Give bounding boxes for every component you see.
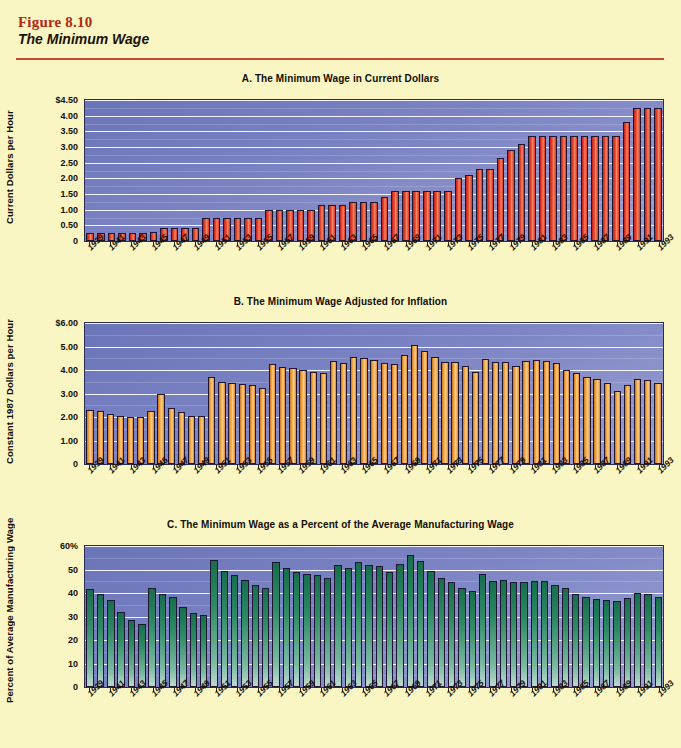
bar	[486, 169, 494, 241]
bar	[218, 382, 225, 464]
bar	[573, 373, 580, 464]
bar	[350, 357, 357, 464]
bar	[572, 594, 579, 687]
bar	[239, 384, 246, 464]
bar	[283, 568, 290, 687]
bar-cell	[491, 323, 501, 464]
panel-a-plot-area: Current Dollars per Hour $4.504.003.503.…	[0, 85, 681, 270]
bar-cell	[572, 323, 582, 464]
bar	[168, 408, 175, 464]
panel-b-xlabels: 1939194119431945194719491951195319551957…	[84, 469, 664, 511]
bar-cell	[136, 323, 146, 464]
bar	[644, 380, 651, 464]
bar-cell	[430, 323, 440, 464]
bar-cell	[470, 323, 480, 464]
bar	[147, 411, 154, 464]
bar	[553, 363, 560, 464]
bar-cell	[219, 546, 229, 687]
bar	[518, 144, 526, 241]
bar	[208, 377, 215, 464]
bar	[583, 377, 590, 464]
bar	[365, 565, 372, 687]
bar-cell	[95, 546, 105, 687]
bar-cell	[516, 100, 527, 241]
bar-cell	[348, 100, 359, 241]
panel-c-ylabel: Percent of Average Manufacturing Wage	[4, 531, 16, 703]
bar-cell	[298, 323, 308, 464]
ytick-label: 5.00	[60, 342, 78, 351]
bar	[339, 205, 347, 241]
bar-cell	[541, 323, 551, 464]
bar-cell	[217, 323, 227, 464]
bar	[528, 136, 536, 241]
bar-cell	[257, 323, 267, 464]
bar-cell	[292, 546, 302, 687]
bar-cell	[389, 323, 399, 464]
panel-c-xlabels: 1939194119431945194719491951195319551957…	[84, 692, 664, 734]
bar-cell	[521, 323, 531, 464]
bar	[269, 364, 276, 464]
bar-cell	[169, 100, 180, 241]
bar-cell	[349, 323, 359, 464]
bar-cell	[333, 546, 343, 687]
bar-cell	[600, 100, 611, 241]
ytick-label: 0	[73, 460, 78, 469]
bar	[492, 362, 499, 464]
ytick-label: 4.00	[60, 111, 78, 120]
bar	[431, 357, 438, 464]
panel-b-plot-area: Constant 1987 Dollars per Hour $6.005.00…	[0, 308, 681, 493]
bar	[401, 355, 408, 464]
bar	[602, 136, 610, 241]
bar-cell	[453, 100, 464, 241]
bar	[444, 191, 452, 241]
bar	[128, 620, 135, 687]
ytick-label: 4.00	[60, 366, 78, 375]
bar-cell	[230, 546, 240, 687]
bar	[179, 607, 186, 687]
bar-cell	[369, 100, 380, 241]
bar-cell	[410, 323, 420, 464]
bar-cell	[288, 323, 298, 464]
bar-cell	[385, 546, 395, 687]
bar-cell	[343, 546, 353, 687]
bar	[330, 361, 337, 464]
ytick-label: 30	[68, 612, 78, 621]
bar	[252, 585, 259, 687]
bar-cell	[166, 323, 176, 464]
ytick-label: 2.00	[60, 174, 78, 183]
bar-cell	[211, 100, 222, 241]
bar-cell	[271, 546, 281, 687]
bar-cell	[579, 100, 590, 241]
bar	[169, 597, 176, 687]
bar	[593, 379, 600, 464]
bar-cell	[137, 546, 147, 687]
bar-cell	[569, 100, 580, 241]
ytick-label: 3.50	[60, 127, 78, 136]
bar-cell	[369, 323, 379, 464]
bar	[360, 202, 368, 241]
bar-cell	[207, 323, 217, 464]
bar-cell	[440, 323, 450, 464]
bar	[190, 613, 197, 687]
bar	[563, 370, 570, 464]
bar-cell	[529, 546, 539, 687]
bar	[272, 562, 279, 687]
bar	[644, 594, 651, 687]
bar	[604, 383, 611, 464]
bar	[97, 594, 104, 687]
bar	[402, 191, 410, 241]
panel-a: A. The Minimum Wage in Current Dollars C…	[0, 72, 681, 270]
bar-cell	[138, 100, 149, 241]
bar	[458, 588, 465, 687]
bar-cell	[653, 546, 663, 687]
bar-cell	[186, 323, 196, 464]
bar-cell	[379, 323, 389, 464]
bar	[551, 585, 558, 687]
bar-cell	[642, 100, 653, 241]
bar-cell	[477, 546, 487, 687]
header-divider	[16, 58, 664, 60]
bar	[200, 615, 207, 687]
bar-cell	[519, 546, 529, 687]
bar	[502, 362, 509, 464]
bar-cell	[339, 323, 349, 464]
